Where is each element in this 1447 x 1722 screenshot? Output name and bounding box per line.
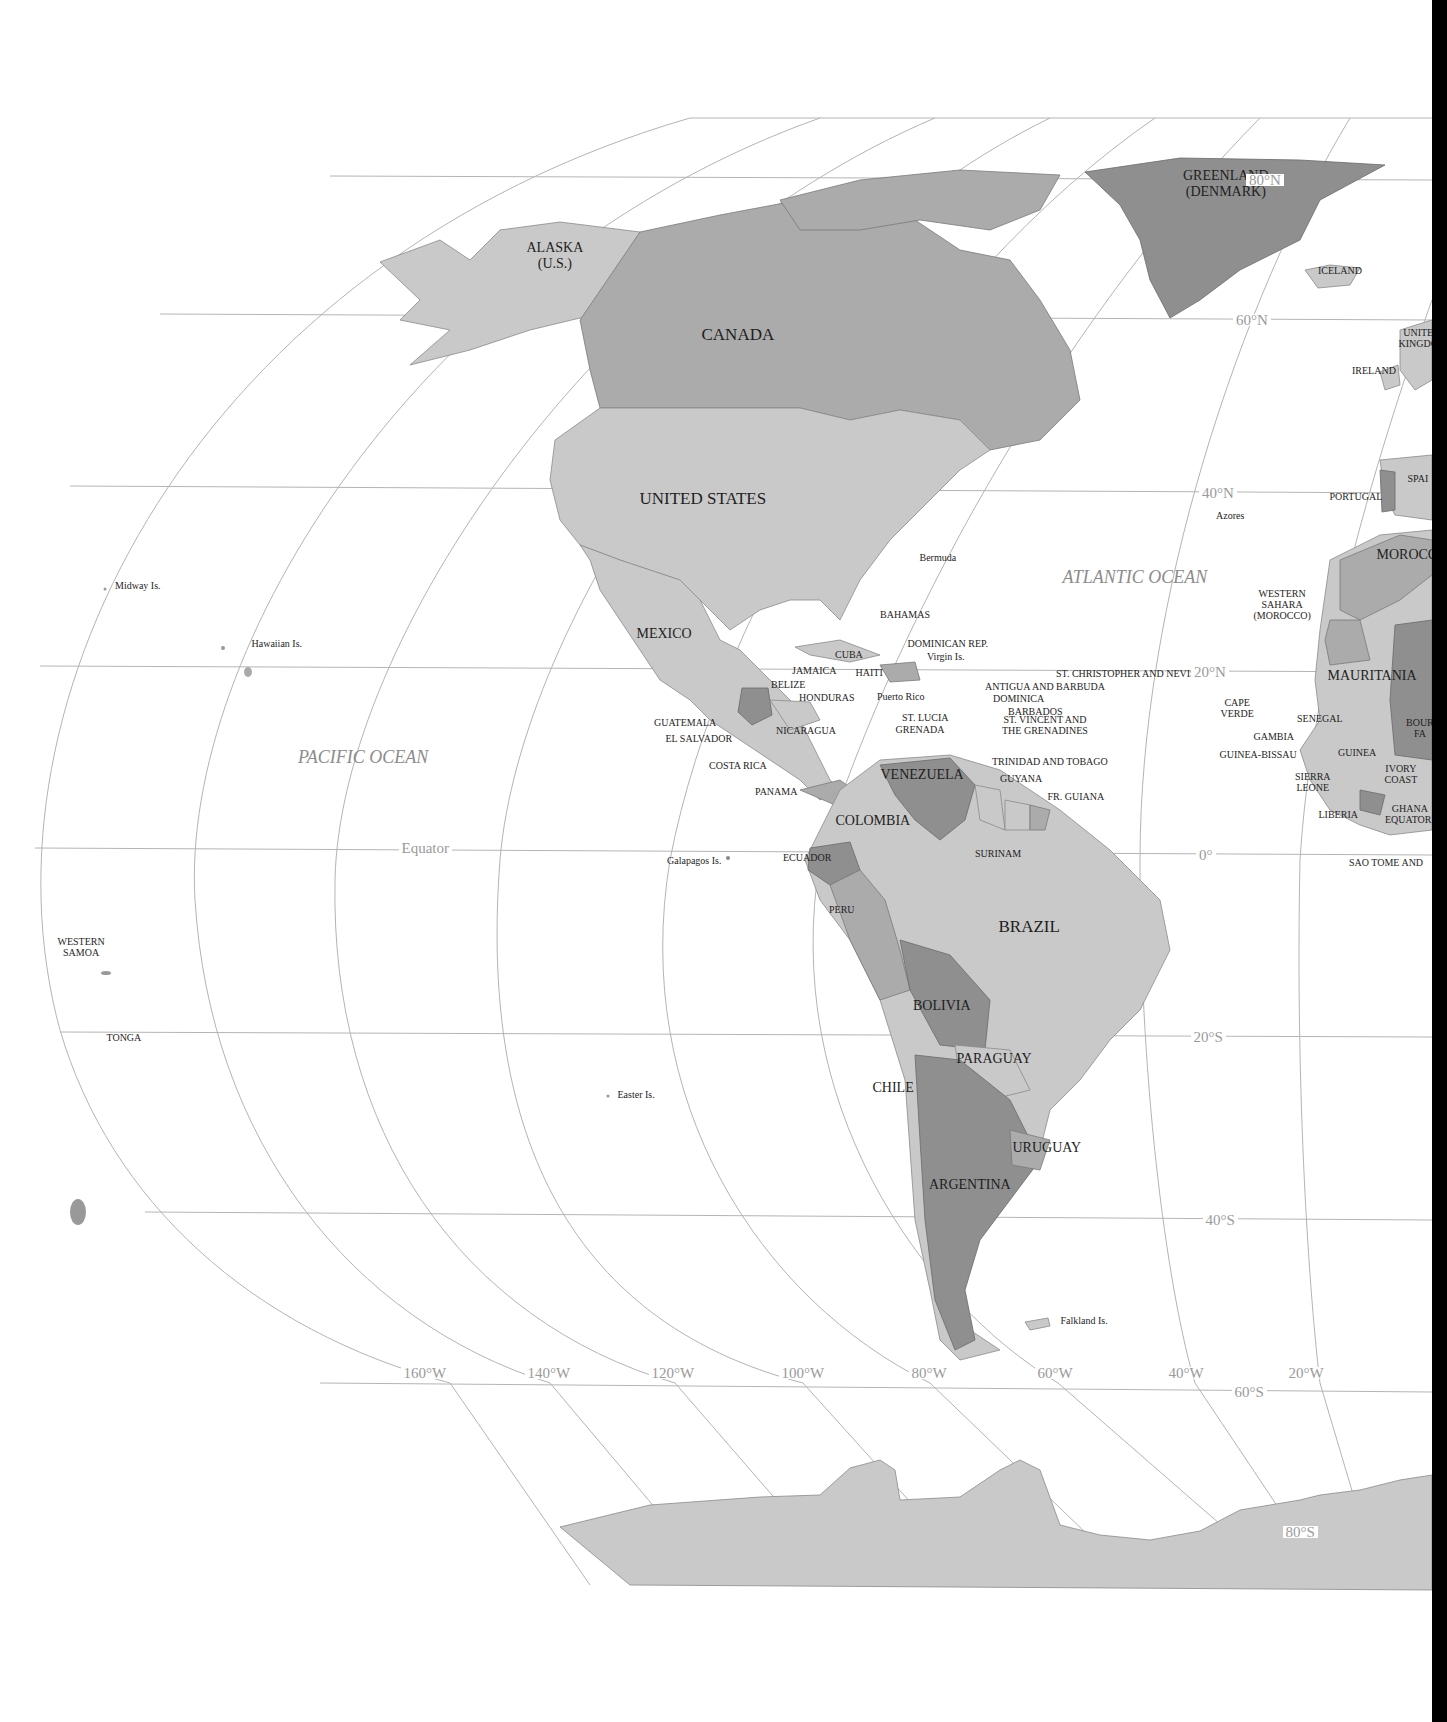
grid-17-label: 20°W [1286, 1367, 1327, 1379]
place-st-vincent-label: ST. VINCENT ANDTHE GRENADINES [1002, 714, 1088, 736]
place-belize-label: BELIZE [771, 679, 805, 690]
place-mauritania-label: MAURITANIA [1328, 668, 1417, 684]
place-paraguay-label: PARAGUAY [957, 1051, 1032, 1067]
place-cuba-label: CUBA [835, 649, 863, 660]
place-sao-tome-label: SAO TOME AND [1349, 857, 1423, 868]
place-ecuador-label: ECUADOR [783, 852, 831, 863]
portugal-shape [1380, 470, 1395, 512]
label-line: ECUADOR [783, 852, 831, 863]
place-puerto-rico-label: Puerto Rico [877, 691, 925, 702]
place-bahamas-label: BAHAMAS [880, 609, 930, 620]
grid-6-label: 20°S [1191, 1031, 1226, 1043]
place-honduras-label: HONDURAS [799, 692, 855, 703]
label-line: LIBERIA [1319, 809, 1358, 820]
label-line: Equator [402, 842, 449, 854]
label-line: 160°W [404, 1367, 447, 1379]
label-line: HONDURAS [799, 692, 855, 703]
label-line: FR. GUIANA [1048, 791, 1105, 802]
label-line: 120°W [652, 1367, 695, 1379]
label-line: 0° [1199, 849, 1213, 861]
midway-dot [104, 588, 107, 591]
label-line: THE GRENADINES [1002, 725, 1088, 736]
ocean-0-label: PACIFIC OCEAN [298, 751, 428, 763]
label-line: (MOROCCO) [1254, 610, 1311, 621]
easter-dot [607, 1095, 610, 1098]
grid-4-label: Equator [399, 842, 452, 854]
label-line: SAO TOME AND [1349, 857, 1423, 868]
label-line: 40°W [1169, 1367, 1204, 1379]
label-line: CHILE [873, 1080, 914, 1096]
place-grenada-label: GRENADA [896, 724, 945, 735]
label-line: SPAI [1408, 473, 1429, 484]
label-line: PANAMA [755, 786, 797, 797]
place-gambia-label: GAMBIA [1254, 731, 1295, 742]
place-midway-label: Midway Is. [115, 580, 161, 591]
hawaii-big-island [244, 667, 252, 677]
place-colombia-label: COLOMBIA [836, 813, 911, 829]
grid-0-label: 80°N [1246, 174, 1284, 186]
place-costa-rica-label: COSTA RICA [709, 760, 767, 771]
label-line: GUINEA [1338, 747, 1376, 758]
label-line: ICELAND [1318, 265, 1362, 276]
place-argentina-label: ARGENTINA [929, 1177, 1011, 1193]
hawaii-dot [221, 646, 225, 650]
grid-1-label: 60°N [1233, 314, 1271, 326]
place-ireland-label: IRELAND [1352, 365, 1396, 376]
black-edge-bar [1432, 0, 1447, 1722]
label-line: 60°S [1235, 1386, 1264, 1398]
label-line: COSTA RICA [709, 760, 767, 771]
label-line: Bermuda [920, 552, 957, 563]
label-line: CANADA [702, 325, 775, 344]
place-iceland-label: ICELAND [1318, 265, 1362, 276]
place-bourkina-faso-label: BOURFA [1406, 717, 1434, 739]
label-line: 80°W [912, 1367, 947, 1379]
label-line: ST. LUCIA [902, 712, 948, 723]
label-line: 20°N [1194, 666, 1226, 678]
world-map [0, 0, 1447, 1722]
label-line: MEXICO [637, 626, 692, 642]
label-line: URUGUAY [1013, 1140, 1082, 1156]
label-line: PARAGUAY [957, 1051, 1032, 1067]
place-hawaiian-label: Hawaiian Is. [252, 638, 303, 649]
label-line: BRAZIL [999, 917, 1060, 936]
label-line: BOUR [1406, 717, 1434, 728]
label-line: 100°W [782, 1367, 825, 1379]
label-line: HAITI [856, 667, 883, 678]
place-uruguay-label: URUGUAY [1013, 1140, 1082, 1156]
place-sierra-leone-label: SIERRALEONE [1295, 771, 1331, 793]
label-line: SAHARA [1254, 599, 1311, 610]
label-line: PORTUGAL [1330, 491, 1383, 502]
place-galapagos-label: Galapagos Is. [667, 855, 721, 866]
place-st-christopher-label: ST. CHRISTOPHER AND NEVIS [1056, 668, 1196, 679]
label-line: WESTERN [58, 936, 105, 947]
label-line: Midway Is. [115, 580, 161, 591]
place-venezuela-label: VENEZUELA [881, 767, 964, 783]
label-line: TRINIDAD AND TOBAGO [992, 756, 1108, 767]
label-line: COLOMBIA [836, 813, 911, 829]
samoa-shape [101, 971, 111, 975]
label-line: COAST [1385, 774, 1418, 785]
falkland-shape [1025, 1318, 1050, 1330]
place-liberia-label: LIBERIA [1319, 809, 1358, 820]
nz-fragment [70, 1199, 86, 1225]
label-line: PACIFIC OCEAN [298, 751, 428, 763]
place-dominica-label: DOMINICA [993, 693, 1044, 704]
place-trinidad-label: TRINIDAD AND TOBAGO [992, 756, 1108, 767]
place-azores-label: Azores [1216, 510, 1244, 521]
grid-5-label: 0° [1196, 849, 1216, 861]
grid-3-label: 20°N [1191, 666, 1229, 678]
place-united-states-label: UNITED STATES [640, 489, 767, 508]
grid-8-label: 60°S [1232, 1386, 1267, 1398]
label-line: Galapagos Is. [667, 855, 721, 866]
grid-10-label: 160°W [401, 1367, 450, 1379]
label-line: 40°S [1206, 1214, 1235, 1226]
label-line: ST. CHRISTOPHER AND NEVIS [1056, 668, 1196, 679]
place-alaska-label: ALASKA(U.S.) [527, 240, 584, 272]
place-tonga-label: TONGA [107, 1032, 142, 1043]
label-line: (U.S.) [527, 256, 584, 272]
landmasses [70, 158, 1432, 1590]
label-line: EL SALVADOR [666, 733, 733, 744]
label-line: IVORY [1385, 763, 1418, 774]
grid-2-label: 40°N [1199, 487, 1237, 499]
label-line: GUATEMALA [654, 717, 716, 728]
